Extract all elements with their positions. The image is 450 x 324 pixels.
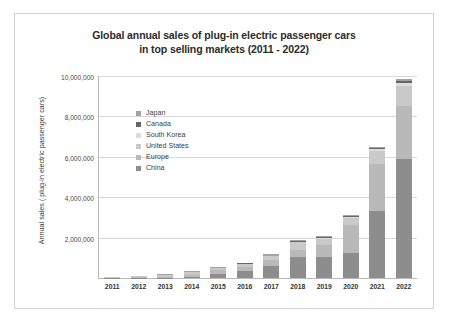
legend-swatch-icon — [136, 155, 141, 160]
y-axis-tick-label: 10,000,000 — [61, 74, 94, 81]
legend-swatch-icon — [136, 166, 141, 171]
plot-area: 2,000,0004,000,0006,000,0008,000,00010,0… — [98, 76, 417, 279]
chart-title-line-2: in top selling markets (2011 - 2022) — [15, 42, 433, 56]
bar-segment — [369, 164, 385, 210]
bar-segment — [316, 239, 332, 246]
bar-segment — [396, 86, 412, 106]
chart-legend: JapanCanadaSouth KoreaUnited StatesEurop… — [136, 109, 189, 172]
legend-item[interactable]: Canada — [136, 120, 189, 128]
bar-segment — [343, 218, 359, 225]
bar-segment — [290, 250, 306, 258]
chart-title: Global annual sales of plug-in electric … — [15, 28, 433, 56]
bar-group[interactable]: 2016 — [237, 263, 253, 278]
y-axis-tick-label: 2,000,000 — [65, 235, 94, 242]
bar-segment — [396, 159, 412, 278]
legend-swatch-icon — [136, 111, 141, 116]
legend-swatch-icon — [136, 144, 141, 149]
bar-group[interactable]: 2021 — [369, 147, 385, 278]
bars-layer: 2011201220132014201520162017201820192020… — [99, 76, 417, 278]
legend-swatch-icon — [136, 133, 141, 138]
bar-segment — [316, 245, 332, 256]
bar-segment — [263, 266, 279, 278]
bar-segment — [369, 211, 385, 278]
bar-group[interactable]: 2013 — [157, 274, 173, 278]
legend-label: Europe — [146, 153, 169, 161]
bar-group[interactable]: 2019 — [316, 236, 332, 278]
bar-segment — [343, 253, 359, 278]
bar-segment — [237, 271, 253, 278]
bar-group[interactable]: 2015 — [210, 267, 226, 278]
legend-label: Canada — [146, 120, 171, 128]
bar-group[interactable]: 2018 — [290, 240, 306, 278]
y-axis-tick-label: 8,000,000 — [65, 114, 94, 121]
bar-group[interactable]: 2014 — [184, 271, 200, 278]
y-axis-tick-label: 6,000,000 — [65, 154, 94, 161]
bar-segment — [184, 277, 200, 279]
chart-title-line-1: Global annual sales of plug-in electric … — [15, 28, 433, 42]
chart-container: Global annual sales of plug-in electric … — [14, 13, 434, 309]
bar-segment — [343, 225, 359, 253]
legend-swatch-icon — [136, 122, 141, 127]
x-axis-tick-label: 2022 — [384, 283, 424, 290]
legend-item[interactable]: Europe — [136, 153, 189, 161]
legend-item[interactable]: United States — [136, 142, 189, 150]
bar-group[interactable]: 2022 — [396, 79, 412, 278]
bar-segment — [396, 106, 412, 159]
bar-segment — [290, 257, 306, 278]
y-axis-tick-label: 4,000,000 — [65, 195, 94, 202]
bar-segment — [210, 274, 226, 278]
legend-item[interactable]: South Korea — [136, 131, 189, 139]
bar-segment — [290, 242, 306, 249]
legend-item[interactable]: Japan — [136, 109, 189, 117]
legend-label: United States — [146, 142, 189, 150]
bar-segment — [369, 151, 385, 164]
legend-label: South Korea — [146, 131, 185, 139]
legend-label: China — [146, 164, 165, 172]
bar-group[interactable]: 2020 — [343, 215, 359, 278]
bar-group[interactable]: 2017 — [263, 254, 279, 278]
bar-group[interactable]: 2011 — [104, 277, 120, 278]
y-axis-title: Annual sales ( plug-in electric passenge… — [37, 71, 46, 271]
legend-item[interactable]: China — [136, 164, 189, 172]
bar-group[interactable]: 2012 — [131, 276, 147, 278]
bar-segment — [316, 257, 332, 278]
legend-label: Japan — [146, 109, 165, 117]
